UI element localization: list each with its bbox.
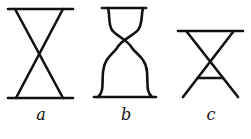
figure-b-label: b	[121, 105, 131, 124]
figure-c-label: c	[207, 105, 216, 124]
figure-c-diagonal-1	[187, 32, 238, 97]
figure-a	[8, 9, 73, 98]
figure-c-diagonal-2	[183, 32, 233, 97]
figure-a-label: a	[36, 105, 46, 124]
figure-c	[178, 31, 243, 97]
figure-b	[94, 8, 156, 97]
